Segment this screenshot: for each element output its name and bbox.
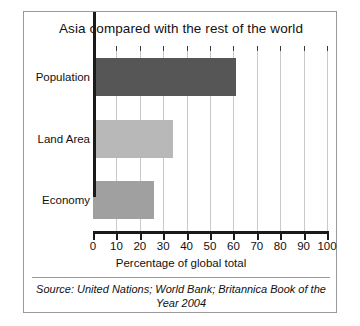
chart-figure: Asia compared with the rest of the world… bbox=[23, 11, 337, 313]
x-tick-label: 90 bbox=[297, 240, 310, 252]
bar bbox=[93, 181, 154, 219]
category-axis-labels: PopulationLand AreaEconomy bbox=[24, 46, 92, 231]
bar bbox=[93, 120, 173, 158]
x-axis-tick-labels: 0102030405060708090100 bbox=[93, 240, 327, 256]
x-tick-label: 0 bbox=[90, 240, 96, 252]
tick-mark-top bbox=[257, 46, 258, 51]
gridline bbox=[280, 46, 281, 231]
gridline bbox=[257, 46, 258, 231]
x-tick-label: 50 bbox=[204, 240, 217, 252]
tick-mark-top bbox=[280, 46, 281, 51]
gridline bbox=[327, 46, 328, 231]
tick-mark-top bbox=[187, 46, 188, 51]
tick-mark-top bbox=[116, 46, 117, 51]
tick-mark-top bbox=[304, 46, 305, 51]
category-label: Economy bbox=[24, 194, 90, 206]
category-label: Population bbox=[24, 71, 90, 83]
x-tick-label: 70 bbox=[250, 240, 263, 252]
tick-mark-top bbox=[233, 46, 234, 51]
x-axis-title: Percentage of global total bbox=[24, 257, 338, 269]
x-tick-label: 40 bbox=[180, 240, 193, 252]
gridline bbox=[304, 46, 305, 231]
x-tick-label: 20 bbox=[133, 240, 146, 252]
y-axis-line bbox=[93, 12, 96, 197]
x-tick-label: 100 bbox=[317, 240, 336, 252]
tick-mark-top bbox=[163, 46, 164, 51]
tick-mark-top bbox=[140, 46, 141, 51]
plot-area: PopulationLand AreaEconomy bbox=[24, 46, 338, 231]
tick-mark-top bbox=[210, 46, 211, 51]
source-note: Source: United Nations; World Bank; Brit… bbox=[34, 282, 328, 310]
bar bbox=[93, 58, 236, 96]
note-divider bbox=[32, 277, 330, 278]
category-label: Land Area bbox=[24, 133, 90, 145]
x-tick-label: 60 bbox=[227, 240, 240, 252]
bars-canvas bbox=[93, 46, 327, 231]
x-tick-label: 30 bbox=[157, 240, 170, 252]
x-tick-label: 10 bbox=[110, 240, 123, 252]
x-tick-label: 80 bbox=[274, 240, 287, 252]
tick-mark-top bbox=[327, 46, 328, 51]
chart-title: Asia compared with the rest of the world bbox=[24, 21, 338, 36]
